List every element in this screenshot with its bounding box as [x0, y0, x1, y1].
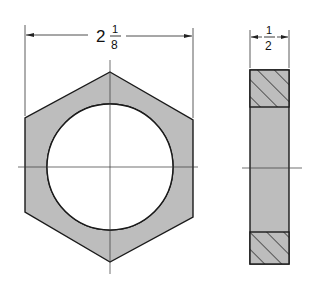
- side-arrowhead-left: [251, 35, 258, 39]
- hatched-section-bottom: [250, 232, 289, 264]
- front-view: 2 1 8: [18, 23, 198, 274]
- thickness-denominator: 2: [265, 39, 272, 53]
- width-whole: 2: [96, 27, 105, 46]
- side-view: 1 2: [242, 24, 302, 264]
- width-numerator: 1: [112, 23, 118, 35]
- width-denominator: 8: [111, 38, 118, 52]
- hex-nut-drawing: 2 1 8 1 2: [0, 0, 310, 290]
- arrowhead-right: [184, 34, 192, 38]
- arrowhead-left: [26, 33, 34, 37]
- thickness-numerator: 1: [266, 24, 272, 36]
- hatched-section-top: [250, 70, 289, 107]
- side-arrowhead-right: [281, 35, 288, 39]
